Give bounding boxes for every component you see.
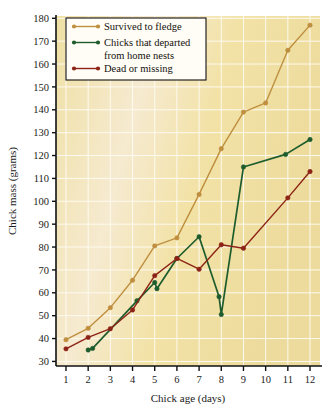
legend-swatch-marker bbox=[72, 66, 76, 70]
data-point bbox=[241, 110, 245, 114]
data-point bbox=[90, 346, 94, 350]
line-chart: 3040506070809010011012013014015016017018… bbox=[0, 0, 335, 419]
data-point bbox=[86, 326, 90, 330]
data-point bbox=[219, 312, 223, 316]
data-point bbox=[155, 286, 159, 290]
legend-swatch-marker bbox=[72, 40, 76, 44]
data-point bbox=[175, 236, 179, 240]
y-tick-label: 120 bbox=[33, 150, 49, 161]
y-tick-label: 50 bbox=[39, 310, 50, 321]
data-point bbox=[130, 278, 134, 282]
x-tick-label: 3 bbox=[108, 374, 113, 385]
y-tick-label: 60 bbox=[39, 287, 50, 298]
y-tick-label: 130 bbox=[33, 127, 49, 138]
y-tick-label: 30 bbox=[39, 356, 50, 367]
data-point bbox=[286, 48, 290, 52]
data-point bbox=[197, 192, 201, 196]
data-point bbox=[108, 305, 112, 309]
legend-label-line2: from home nests bbox=[104, 50, 174, 61]
legend-label: Survived to fledge bbox=[104, 21, 182, 32]
x-tick-label: 5 bbox=[152, 374, 157, 385]
chart-figure: 3040506070809010011012013014015016017018… bbox=[0, 0, 335, 419]
y-tick-label: 110 bbox=[34, 173, 49, 184]
legend-label: Dead or missing bbox=[104, 63, 174, 74]
data-point bbox=[197, 235, 201, 239]
data-point bbox=[308, 137, 312, 141]
data-point bbox=[219, 243, 223, 247]
data-point bbox=[153, 273, 157, 277]
x-tick-label: 11 bbox=[283, 374, 293, 385]
x-axis-title: Chick age (days) bbox=[151, 392, 226, 405]
data-point bbox=[308, 169, 312, 173]
y-tick-label: 160 bbox=[33, 59, 49, 70]
data-point bbox=[108, 327, 112, 331]
data-point bbox=[175, 256, 179, 260]
y-axis-title: Chick mass (grams) bbox=[6, 147, 19, 235]
data-point bbox=[217, 294, 221, 298]
data-point bbox=[153, 280, 157, 284]
legend-swatch-marker bbox=[96, 66, 100, 70]
data-point bbox=[263, 101, 267, 105]
data-point bbox=[308, 23, 312, 27]
x-tick-label: 1 bbox=[63, 374, 68, 385]
data-point bbox=[153, 244, 157, 248]
y-tick-label: 180 bbox=[33, 13, 49, 24]
y-tick-label: 40 bbox=[39, 333, 50, 344]
y-tick-label: 90 bbox=[39, 219, 50, 230]
x-tick-label: 4 bbox=[130, 374, 136, 385]
x-tick-label: 12 bbox=[305, 374, 316, 385]
data-point bbox=[86, 335, 90, 339]
x-tick-label: 6 bbox=[174, 374, 179, 385]
legend-label: Chicks that departed bbox=[104, 37, 191, 48]
data-point bbox=[64, 337, 68, 341]
x-tick-label: 8 bbox=[219, 374, 224, 385]
data-point bbox=[241, 165, 245, 169]
legend-swatch-marker bbox=[72, 24, 76, 28]
data-point bbox=[241, 246, 245, 250]
y-tick-label: 100 bbox=[33, 196, 49, 207]
chart-legend: Survived to fledgeChicks that departedfr… bbox=[66, 18, 206, 80]
legend-swatch-marker bbox=[96, 40, 100, 44]
x-tick-label: 2 bbox=[86, 374, 91, 385]
y-tick-label: 70 bbox=[39, 265, 50, 276]
data-point bbox=[130, 308, 134, 312]
x-tick-label: 7 bbox=[196, 374, 201, 385]
y-tick-label: 140 bbox=[33, 104, 49, 115]
data-point bbox=[86, 348, 90, 352]
x-tick-label: 10 bbox=[260, 374, 271, 385]
x-tick-label: 9 bbox=[241, 374, 246, 385]
data-point bbox=[64, 347, 68, 351]
data-point bbox=[219, 146, 223, 150]
y-tick-label: 150 bbox=[33, 82, 49, 93]
data-point bbox=[283, 152, 287, 156]
y-tick-label: 170 bbox=[33, 36, 49, 47]
legend-swatch-marker bbox=[96, 24, 100, 28]
data-point bbox=[286, 196, 290, 200]
y-tick-label: 80 bbox=[39, 242, 50, 253]
data-point bbox=[197, 267, 201, 271]
